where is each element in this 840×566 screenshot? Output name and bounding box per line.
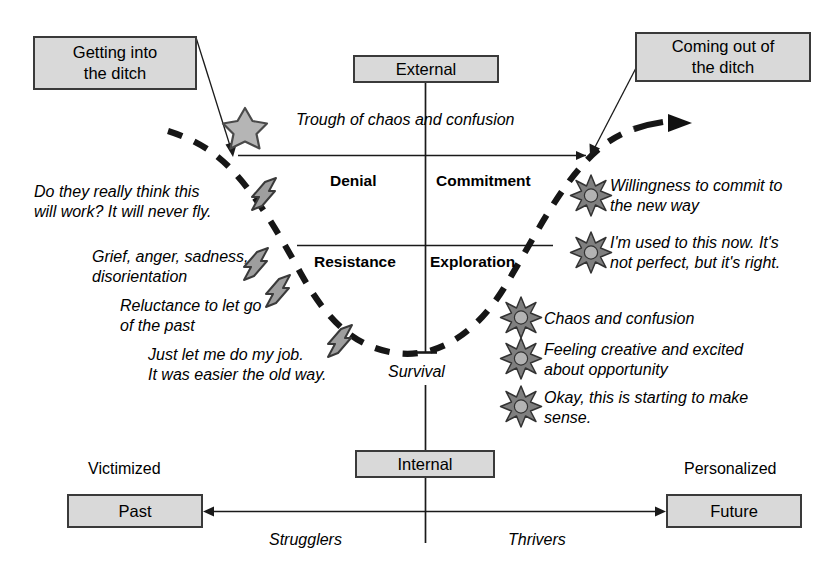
change-curve-diagram: Getting into the ditch Coming out of the… — [0, 0, 840, 566]
box-past[interactable]: Past — [67, 494, 203, 528]
starburst-icon — [571, 175, 612, 216]
axis-caption-thrivers: Thrivers — [508, 530, 566, 550]
lightning-bolt-icon — [266, 275, 290, 307]
box-future[interactable]: Future — [666, 494, 802, 528]
quadrant-label-denial: Denial — [330, 172, 377, 191]
box-getting-into-the-ditch[interactable]: Getting into the ditch — [33, 36, 197, 90]
left-statement-grief: Grief, anger, sadness, disorientation — [92, 247, 249, 286]
right-statement-chaos: Chaos and confusion — [544, 309, 694, 329]
left-statement-just-let-me: Just let me do my job. It was easier the… — [148, 345, 326, 384]
box-coming-out-of-the-ditch[interactable]: Coming out of the ditch — [635, 32, 811, 82]
bottom-horizontal-axis — [203, 507, 666, 517]
quadrant-label-commitment: Commitment — [436, 172, 531, 191]
lightning-bolt-icon — [328, 325, 352, 357]
left-statement-denial: Do they really think this will work? It … — [34, 182, 212, 221]
axis-caption-personalized: Personalized — [684, 459, 777, 479]
top-horizontal-axis — [238, 151, 586, 160]
starburst-icon — [501, 297, 542, 338]
box-internal[interactable]: Internal — [355, 450, 495, 478]
box-external[interactable]: External — [353, 55, 499, 83]
right-statement-used-to-this: I'm used to this now. It's not perfect, … — [610, 233, 780, 272]
quadrant-label-exploration: Exploration — [430, 253, 515, 272]
leader-line-coming-out — [590, 68, 637, 157]
curve-label-trough: Trough of chaos and confusion — [296, 110, 515, 130]
starburst-icon — [501, 338, 542, 379]
axis-caption-victimized: Victimized — [88, 459, 161, 479]
axis-caption-strugglers: Strugglers — [269, 530, 342, 550]
starburst-icon — [501, 386, 542, 427]
right-statement-willingness: Willingness to commit to the new way — [610, 176, 782, 215]
lightning-bolt-icon — [252, 178, 276, 210]
right-statement-okay-sense: Okay, this is starting to make sense. — [544, 388, 748, 427]
right-statement-creative: Feeling creative and excited about oppor… — [544, 340, 743, 379]
quadrant-label-resistance: Resistance — [314, 253, 396, 272]
starburst-icon — [571, 232, 612, 273]
curve-label-survival: Survival — [388, 362, 445, 382]
left-statement-reluctance: Reluctance to let go of the past — [120, 296, 261, 335]
